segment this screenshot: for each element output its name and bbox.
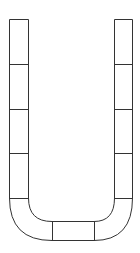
u-shape-diagram: [0, 0, 140, 253]
inner-outline: [29, 20, 115, 222]
